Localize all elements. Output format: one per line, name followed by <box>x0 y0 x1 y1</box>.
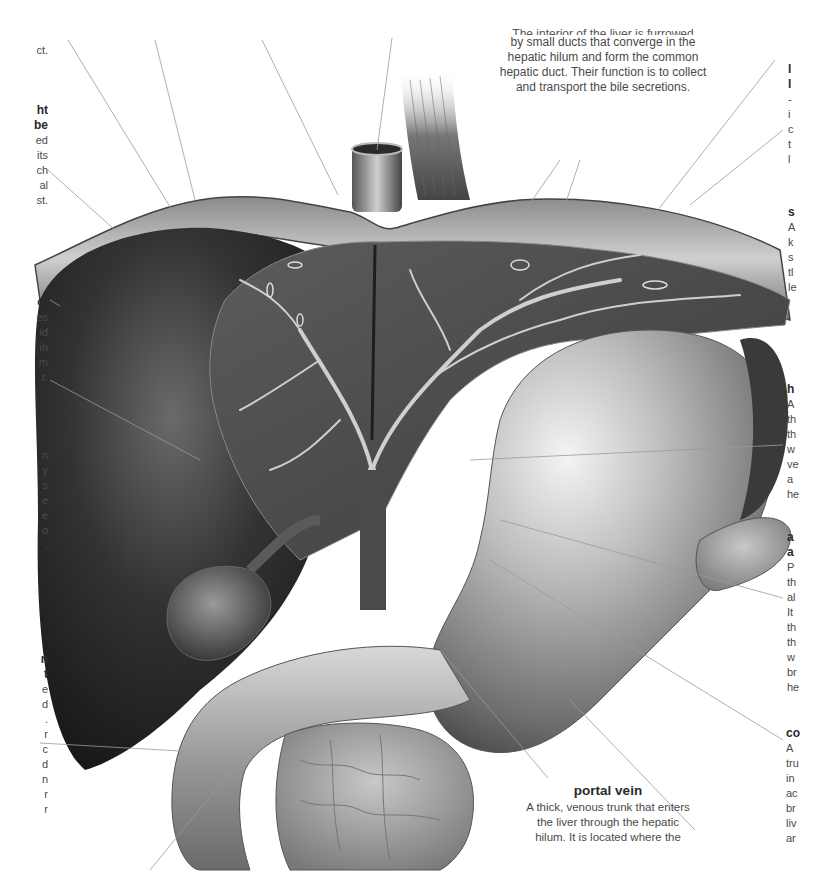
label-line: le <box>788 280 831 295</box>
label-line: ed <box>30 133 48 148</box>
label-title: n <box>30 652 48 667</box>
label-line: - <box>788 92 831 107</box>
label-line: A thick, venous trunk that enters <box>508 800 708 815</box>
label-line: r <box>30 727 48 742</box>
label-title: l <box>788 62 831 77</box>
label-right-fragment-2: s A k s tl le <box>788 205 831 295</box>
label-line: It <box>787 605 831 620</box>
label-title: co <box>786 726 831 741</box>
label-line: n <box>30 448 48 463</box>
label-title: a <box>787 530 831 545</box>
label-line: a <box>787 472 831 487</box>
label-line: in <box>30 340 48 355</box>
label-line: th <box>787 427 831 442</box>
label-line: ar <box>786 831 831 846</box>
label-line: he <box>787 680 831 695</box>
label-line: s <box>30 478 48 493</box>
label-line: m <box>30 355 48 370</box>
label-title: h <box>787 382 831 397</box>
label-right-fragment-4: a a P th al It th th w br he <box>787 530 831 695</box>
label-line: al <box>30 178 48 193</box>
label-right-fragment-1: l l - i c t l <box>788 62 831 167</box>
label-line: in <box>786 771 831 786</box>
label-title: s <box>788 205 831 220</box>
label-line: th <box>787 635 831 650</box>
label-right-fragment-3: h A th th w ve a he <box>787 382 831 502</box>
label-title: t <box>30 667 48 682</box>
label-line: he <box>787 487 831 502</box>
label-title: ct <box>30 295 48 310</box>
label-line: tl <box>788 265 831 280</box>
label-line: d <box>30 697 48 712</box>
label-line: th <box>787 575 831 590</box>
label-line: br <box>787 665 831 680</box>
label-line: e <box>30 493 48 508</box>
label-line: r <box>30 787 48 802</box>
label-line: the liver through the hepatic <box>508 815 708 830</box>
label-line: d <box>30 757 48 772</box>
label-line: e <box>30 508 48 523</box>
label-title: ht <box>30 103 48 118</box>
label-line: k <box>788 235 831 250</box>
label-line: r <box>30 802 48 817</box>
label-title: l <box>788 77 831 92</box>
label-line: c <box>30 742 48 757</box>
label-line: st. <box>30 193 48 208</box>
label-left-fragment-1: ct. <box>30 43 48 58</box>
label-line: c <box>788 122 831 137</box>
label-portal-vein: portal vein A thick, venous trunk that e… <box>508 783 708 845</box>
label-left-fragment-4: r n y s e e o . <box>30 433 48 553</box>
label-line: al <box>787 590 831 605</box>
label-line: and transport the bile secretions. <box>488 80 718 95</box>
label-line: i <box>788 107 831 122</box>
label-line: . <box>30 712 48 727</box>
label-line: ch <box>30 163 48 178</box>
label-line: th <box>787 412 831 427</box>
label-line: n <box>30 772 48 787</box>
label-left-fragment-right-lobe: ht be ed its ch al st. <box>30 103 48 208</box>
label-title: a <box>787 545 831 560</box>
portal-vein-trunk <box>360 470 386 610</box>
label-portal-vein-title: portal vein <box>508 783 708 798</box>
label-left-fragment-3: ct es id in m t. <box>30 295 48 385</box>
label-right-fragment-5: co A tru in ac br liv ar <box>786 726 831 846</box>
label-line: t <box>788 137 831 152</box>
label-line: A <box>786 741 831 756</box>
inferior-vena-cava <box>352 143 402 212</box>
label-line: its <box>30 148 48 163</box>
label-line: hilum. It is located where the <box>508 830 708 845</box>
label-line: ve <box>787 457 831 472</box>
label-line: id <box>30 325 48 340</box>
label-line: P <box>787 560 831 575</box>
label-line: ac <box>786 786 831 801</box>
label-line: y <box>30 463 48 478</box>
label-line: A <box>787 397 831 412</box>
liver-stomach-illustration <box>0 0 831 886</box>
label-line: s <box>788 250 831 265</box>
label-line: by small ducts that converge in the <box>488 35 718 50</box>
label-title: be <box>30 118 48 133</box>
label-line: hepatic hilum and form the common <box>488 50 718 65</box>
label-line: br <box>786 801 831 816</box>
label-line: o <box>30 523 48 538</box>
label-line: w <box>787 650 831 665</box>
label-line: es <box>30 310 48 325</box>
label-title: r <box>30 433 48 448</box>
label-line: liv <box>786 816 831 831</box>
label-line: A <box>788 220 831 235</box>
label-line: tru <box>786 756 831 771</box>
label-line: th <box>787 620 831 635</box>
label-hepatic-ducts-cut-line: The interior of the liver is furrowed <box>488 27 718 35</box>
label-line: w <box>787 442 831 457</box>
label-line: t. <box>30 370 48 385</box>
esophagus <box>400 70 470 200</box>
label-line: . <box>30 538 48 553</box>
pancreas-head <box>276 723 474 870</box>
label-line: e <box>30 682 48 697</box>
label-line: l <box>788 152 831 167</box>
label-left-fragment-5: n t e d . r c d n r r <box>30 652 48 817</box>
label-line: hepatic duct. Their function is to colle… <box>488 65 718 80</box>
label-line: ct. <box>30 43 48 58</box>
label-hepatic-ducts: The interior of the liver is furrowed by… <box>488 28 718 95</box>
